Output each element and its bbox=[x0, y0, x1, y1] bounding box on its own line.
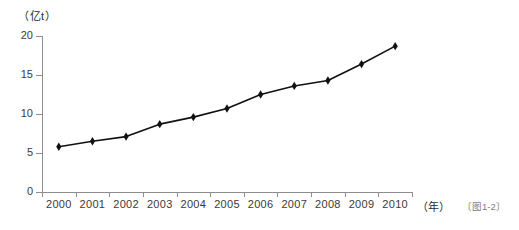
y-tick-mark bbox=[36, 114, 42, 115]
x-tick-label: 2010 bbox=[374, 198, 416, 210]
x-tick-mark bbox=[378, 192, 379, 197]
y-axis-line bbox=[42, 36, 43, 193]
data-point-marker bbox=[191, 113, 196, 121]
chart-screenshot: （亿t） 20151050 20002001200220032004200520… bbox=[0, 0, 519, 230]
y-tick-mark bbox=[36, 75, 42, 76]
data-point-marker bbox=[292, 82, 297, 90]
y-tick-label: 15 bbox=[7, 68, 33, 80]
y-tick-mark bbox=[36, 36, 42, 37]
data-point-marker bbox=[123, 132, 128, 140]
x-tick-mark bbox=[42, 192, 43, 197]
figure-caption: 〔图1-2〕 bbox=[462, 199, 506, 213]
y-axis-unit-label: （亿t） bbox=[18, 7, 56, 23]
x-tick-mark bbox=[345, 192, 346, 197]
series-line bbox=[59, 46, 395, 147]
x-tick-mark bbox=[311, 192, 312, 197]
y-tick-label: 20 bbox=[7, 29, 33, 41]
data-point-marker bbox=[157, 120, 162, 128]
data-point-marker bbox=[90, 137, 95, 145]
x-tick-mark bbox=[412, 192, 413, 197]
data-point-marker bbox=[56, 143, 61, 151]
data-point-marker bbox=[258, 90, 263, 98]
x-tick-mark bbox=[277, 192, 278, 197]
x-tick-mark bbox=[76, 192, 77, 197]
data-point-marker bbox=[224, 104, 229, 112]
x-axis-unit-label: （年） bbox=[417, 198, 450, 214]
x-axis-line bbox=[42, 192, 413, 193]
line-series-plot bbox=[0, 0, 519, 230]
y-tick-label: 10 bbox=[7, 107, 33, 119]
y-tick-label: 5 bbox=[7, 146, 33, 158]
x-tick-mark bbox=[177, 192, 178, 197]
x-tick-mark bbox=[143, 192, 144, 197]
data-point-marker bbox=[325, 76, 330, 84]
x-tick-mark bbox=[244, 192, 245, 197]
series-markers bbox=[56, 42, 398, 151]
y-tick-label: 0 bbox=[7, 185, 33, 197]
data-point-marker bbox=[359, 60, 364, 68]
x-tick-mark bbox=[109, 192, 110, 197]
y-tick-mark bbox=[36, 153, 42, 154]
data-point-marker bbox=[393, 42, 398, 50]
x-tick-mark bbox=[210, 192, 211, 197]
